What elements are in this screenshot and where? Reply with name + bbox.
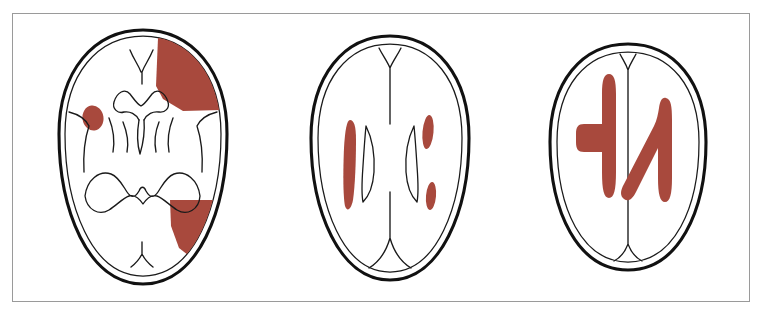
- brain-panel-3: [508, 14, 753, 301]
- brain-panel-2: [273, 14, 508, 301]
- figure-root: [0, 0, 763, 317]
- figure-frame: [12, 13, 750, 302]
- brain-panel-1: [13, 14, 273, 301]
